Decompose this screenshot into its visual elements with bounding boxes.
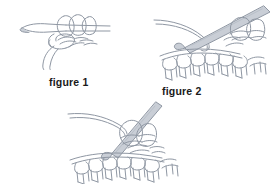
figure-3-drawing (66, 100, 188, 184)
illustration-canvas: figure 1 figure 2 (0, 0, 273, 185)
working-yarn-figure-3 (68, 113, 127, 136)
figure-3-illustration (66, 100, 188, 184)
figure-1-caption: figure 1 (49, 76, 89, 88)
yarn-tail-figure-1 (43, 46, 58, 70)
crochet-hook-figure-2 (174, 6, 270, 53)
slip-knot-figure-1 (49, 34, 97, 49)
stitch-edge-figure-2 (248, 57, 266, 74)
stitch-row-figure-2 (163, 53, 248, 80)
figure-1-drawing (14, 6, 134, 70)
figure-2-illustration (152, 4, 270, 82)
crochet-hook-figure-3 (101, 102, 162, 160)
figure-2-drawing (152, 4, 270, 82)
stitch-row-top-figure-2 (160, 49, 242, 60)
figure-2-caption: figure 2 (162, 85, 202, 97)
figure-1-illustration (14, 6, 134, 70)
stitch-row-figure-3 (75, 157, 160, 184)
